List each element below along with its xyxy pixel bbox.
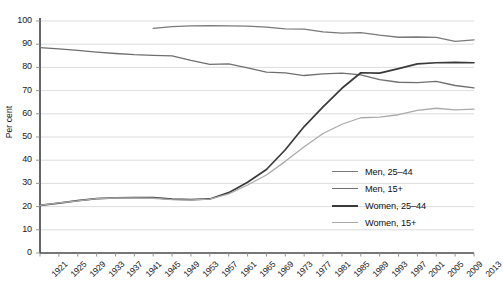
- legend-swatch-line-icon: [332, 205, 358, 207]
- y-tick-label: 10: [6, 224, 32, 234]
- legend-item[interactable]: Women, 15+: [332, 214, 462, 231]
- y-tick-label: 60: [6, 108, 32, 118]
- legend-item[interactable]: Men, 25–44: [332, 163, 462, 180]
- y-tick-label: 90: [6, 38, 32, 48]
- chart-legend: Men, 25–44Men, 15+Women, 25–44Women, 15+: [332, 163, 462, 231]
- legend-swatch-line-icon: [332, 222, 358, 223]
- y-tick-label: 50: [6, 131, 32, 141]
- y-tick-label: 80: [6, 61, 32, 71]
- y-tick-label: 100: [6, 15, 32, 25]
- y-tick-label: 0: [6, 247, 32, 257]
- legend-label: Women, 15+: [365, 218, 416, 228]
- legend-label: Women, 25–44: [365, 201, 426, 211]
- y-tick-label: 70: [6, 85, 32, 95]
- x-tick-label: 2013: [483, 259, 503, 279]
- legend-swatch-line-icon: [332, 171, 358, 172]
- legend-label: Men, 15+: [365, 184, 403, 194]
- legend-item[interactable]: Women, 25–44: [332, 197, 462, 214]
- y-tick-label: 20: [6, 201, 32, 211]
- legend-swatch-line-icon: [332, 188, 358, 189]
- y-tick-label: 30: [6, 177, 32, 187]
- y-tick-label: 40: [6, 154, 32, 164]
- legend-item[interactable]: Men, 15+: [332, 180, 462, 197]
- legend-label: Men, 25–44: [365, 167, 413, 177]
- series-line-0: [153, 26, 474, 42]
